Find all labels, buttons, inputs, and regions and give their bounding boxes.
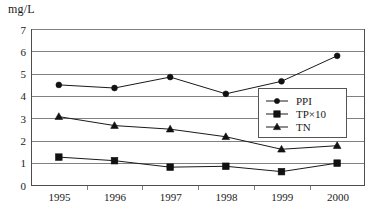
series-line bbox=[59, 157, 337, 172]
legend-label-tn: TN bbox=[296, 121, 311, 133]
circle-data-point bbox=[223, 91, 229, 97]
square-data-point bbox=[223, 163, 230, 170]
circle-data-point bbox=[334, 53, 340, 59]
chart-plot-area: 7 6 5 4 3 2 1 0 1995 1996 1997 1998 1999… bbox=[0, 0, 377, 215]
y-tick-label: 0 bbox=[21, 180, 27, 192]
square-data-point bbox=[111, 157, 118, 164]
x-tick-label: 1996 bbox=[104, 191, 127, 203]
x-axis-tick-labels: 1995 1996 1997 1998 1999 2000 bbox=[48, 191, 349, 203]
y-tick-label: 7 bbox=[21, 24, 27, 36]
series-tp-10 bbox=[56, 154, 341, 175]
legend[interactable]: PPI TP×10 TN bbox=[259, 89, 347, 138]
x-tickmarks bbox=[87, 186, 310, 191]
square-data-point bbox=[167, 164, 174, 171]
circle-marker-icon bbox=[274, 98, 279, 103]
x-tick-label: 1997 bbox=[160, 191, 183, 203]
x-tick-label: 1999 bbox=[271, 191, 294, 203]
y-tick-label: 6 bbox=[21, 46, 27, 58]
circle-data-point bbox=[112, 85, 118, 91]
square-data-point bbox=[278, 168, 285, 175]
square-data-point bbox=[334, 160, 341, 167]
y-tick-label: 2 bbox=[21, 135, 27, 147]
x-tick-label: 2000 bbox=[327, 191, 350, 203]
y-tick-label: 3 bbox=[21, 113, 27, 125]
circle-data-point bbox=[56, 82, 62, 88]
y-tick-label: 1 bbox=[21, 157, 27, 169]
triangle-data-point bbox=[55, 113, 63, 120]
x-tick-label: 1998 bbox=[216, 191, 239, 203]
square-marker-icon bbox=[274, 111, 280, 117]
triangle-data-point bbox=[333, 142, 341, 149]
y-tick-label: 4 bbox=[21, 90, 27, 102]
legend-label-tp: TP×10 bbox=[296, 108, 327, 120]
x-tick-label: 1995 bbox=[48, 191, 71, 203]
line-chart: mg/L 7 6 5 bbox=[0, 0, 377, 215]
square-data-point bbox=[56, 154, 63, 161]
circle-data-point bbox=[167, 74, 173, 80]
y-tick-label: 5 bbox=[21, 68, 27, 80]
circle-data-point bbox=[279, 78, 285, 84]
y-axis-tick-labels: 7 6 5 4 3 2 1 0 bbox=[21, 24, 27, 192]
legend-label-ppi: PPI bbox=[296, 95, 312, 107]
